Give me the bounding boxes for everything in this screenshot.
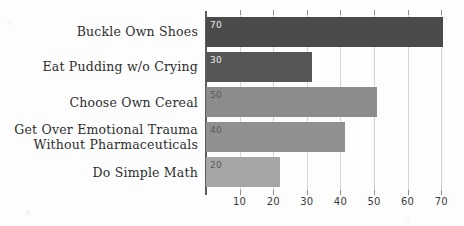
tick-top-60 (408, 10, 409, 15)
x-tick-label: 60 (401, 196, 414, 207)
tick-top-20 (273, 10, 274, 15)
tick-top-50 (374, 10, 375, 15)
bar-value-label: 70 (210, 20, 222, 30)
category-label: Choose Own Cereal (69, 95, 198, 110)
x-tick-label: 50 (367, 196, 380, 207)
bar-value-label: 30 (210, 55, 222, 65)
category-label: Get Over Emotional Trauma Without Pharma… (14, 122, 198, 152)
tick-top-40 (340, 10, 341, 15)
bar-chart: Buckle Own ShoesEat Pudding w/o CryingCh… (0, 0, 464, 226)
x-tick-label: 30 (300, 196, 313, 207)
tick-top-30 (307, 10, 308, 15)
tick-bottom-20 (273, 190, 274, 195)
bar: 50 (206, 87, 377, 117)
bar: 20 (206, 157, 280, 187)
bar-value-label: 40 (210, 125, 222, 135)
category-label: Buckle Own Shoes (77, 24, 198, 39)
x-tick-label: 20 (267, 196, 280, 207)
bar-value-label: 20 (210, 160, 222, 170)
tick-bottom-60 (408, 190, 409, 195)
bar: 30 (206, 52, 312, 82)
category-label: Eat Pudding w/o Crying (42, 59, 198, 74)
tick-bottom-70 (441, 190, 442, 195)
x-tick-label: 70 (435, 196, 448, 207)
tick-bottom-10 (240, 190, 241, 195)
tick-bottom-40 (340, 190, 341, 195)
bar-value-label: 50 (210, 90, 222, 100)
bar: 40 (206, 122, 345, 152)
category-axis: Buckle Own ShoesEat Pudding w/o CryingCh… (0, 14, 202, 190)
tick-top-10 (240, 10, 241, 15)
x-tick-label: 40 (334, 196, 347, 207)
bar: 70 (206, 17, 443, 47)
category-label: Do Simple Math (93, 165, 198, 180)
x-tick-label: 10 (233, 196, 246, 207)
plot-area: 7030504020 (206, 14, 458, 190)
x-axis: 10203040506070 (206, 190, 458, 216)
tick-top-70 (441, 10, 442, 15)
tick-bottom-50 (374, 190, 375, 195)
tick-bottom-30 (307, 190, 308, 195)
